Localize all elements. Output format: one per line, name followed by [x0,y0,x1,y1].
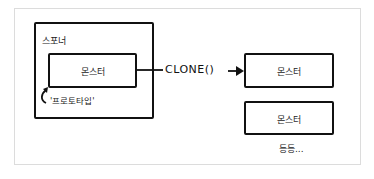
clone-monster-box-1: 몬스터 [244,53,334,88]
clone-method-label: CLONE() [165,63,214,76]
arrow-head-icon [236,66,244,76]
prototype-pointer-icon [42,90,46,103]
connectors [0,0,374,179]
clone-monster-box-2: 몬스터 [244,101,334,135]
clone-monster-label-1: 몬스터 [246,65,332,78]
etc-label: 등등... [279,142,304,155]
clone-monster-label-2: 몬스터 [246,113,332,126]
